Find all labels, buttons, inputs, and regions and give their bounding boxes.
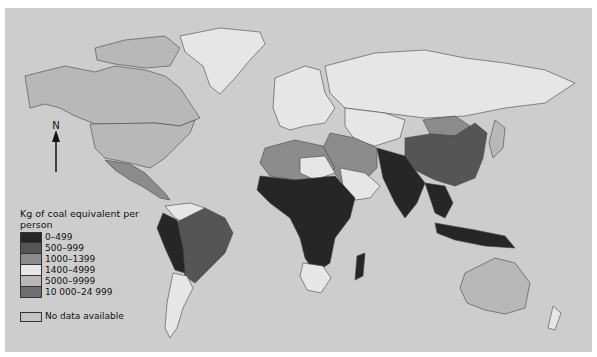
legend-swatch	[20, 243, 42, 254]
legend-row: 0–499	[20, 232, 160, 243]
region-arctic-islands	[95, 36, 180, 68]
legend-row: 10 000–24 999	[20, 287, 160, 298]
legend-row: 500–999	[20, 243, 160, 254]
map-legend: Kg of coal equivalent per person 0–499 5…	[20, 208, 160, 322]
legend-swatch-no-data	[20, 312, 42, 322]
region-canada-alaska	[25, 66, 200, 126]
region-southern-africa	[300, 263, 331, 293]
region-europe	[273, 66, 335, 130]
legend-row: 1400–4999	[20, 265, 160, 276]
legend-row: 1000–1399	[20, 254, 160, 265]
region-australia	[460, 258, 530, 314]
region-indonesia	[435, 223, 515, 248]
north-arrow: N	[49, 120, 63, 176]
region-sub-saharan-africa	[257, 176, 355, 273]
region-se-asia	[425, 183, 453, 218]
legend-swatch	[20, 254, 42, 265]
legend-swatch	[20, 287, 42, 298]
region-mexico	[105, 160, 170, 200]
region-greenland	[180, 28, 265, 94]
legend-swatch	[20, 265, 42, 276]
legend-swatch	[20, 232, 42, 243]
legend-swatch	[20, 276, 42, 287]
legend-row: 5000–9999	[20, 276, 160, 287]
region-russia	[325, 50, 575, 118]
region-japan	[489, 120, 505, 158]
region-argentina	[165, 273, 193, 338]
legend-title: Kg of coal equivalent per person	[20, 208, 160, 230]
region-madagascar	[355, 253, 365, 280]
region-new-zealand	[548, 306, 561, 330]
legend-no-data: No data available	[20, 311, 160, 322]
arrow-up-icon	[49, 120, 63, 176]
